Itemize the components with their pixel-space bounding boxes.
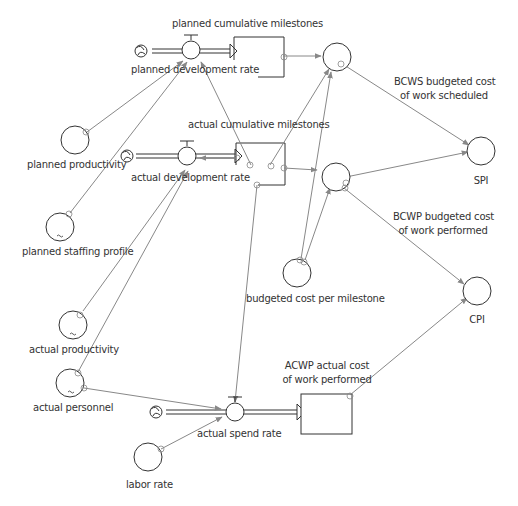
aux-planned-productivity-node[interactable]: [61, 126, 89, 154]
label-acwp-line2: of work performed: [277, 374, 377, 385]
label-planned-staffing-profile: planned staffing profile: [22, 246, 133, 257]
aux-bcwp-node[interactable]: [322, 163, 350, 191]
aux-cpi-node[interactable]: [463, 277, 491, 305]
flow-planned-development-rate[interactable]: [182, 33, 200, 60]
stock-acwp-actual-cost[interactable]: [301, 394, 353, 435]
flow-actual-spend-rate[interactable]: [226, 395, 244, 422]
aux-actual-personnel-node[interactable]: [56, 369, 84, 397]
label-labor-rate: labor rate: [126, 479, 173, 490]
label-bcwp-line2: of work performed: [393, 225, 493, 236]
label-bcwp-line1: BCWP budgeted cost: [393, 211, 493, 222]
stock-actual-cumulative-milestones[interactable]: [235, 142, 286, 186]
label-planned-cumulative-milestones: planned cumulative milestones: [172, 18, 323, 29]
aux-spi-node[interactable]: [467, 137, 495, 165]
stock-planned-cumulative-milestones[interactable]: [233, 36, 285, 78]
cloud-icon: [150, 406, 162, 418]
label-actual-cumulative-milestones: actual cumulative milestones: [188, 119, 330, 130]
label-actual-personnel: actual personnel: [33, 402, 113, 413]
label-spi: SPI: [466, 175, 496, 186]
label-planned-productivity: planned productivity: [27, 159, 126, 170]
label-cpi: CPI: [462, 314, 492, 325]
label-actual-development-rate: actual development rate: [131, 172, 250, 183]
label-bcws-line2: of work scheduled: [394, 90, 494, 101]
label-budgeted-cost-per-milestone: budgeted cost per milestone: [246, 293, 385, 304]
label-acwp-line1: ACWP actual cost: [277, 360, 377, 371]
aux-bcws-node[interactable]: [323, 43, 351, 71]
aux-actual-productivity-node[interactable]: [59, 311, 87, 339]
label-actual-spend-rate: actual spend rate: [197, 428, 281, 439]
flow-actual-development-rate[interactable]: [178, 139, 196, 166]
aux-budgeted-cost-node[interactable]: [283, 259, 311, 287]
cloud-icon: [135, 45, 147, 57]
label-bcws-line1: BCWS budgeted cost: [394, 76, 494, 87]
label-actual-productivity: actual productivity: [29, 344, 119, 355]
aux-planned-staffing-profile-node[interactable]: [46, 213, 74, 241]
aux-labor-rate-node[interactable]: [134, 443, 162, 471]
